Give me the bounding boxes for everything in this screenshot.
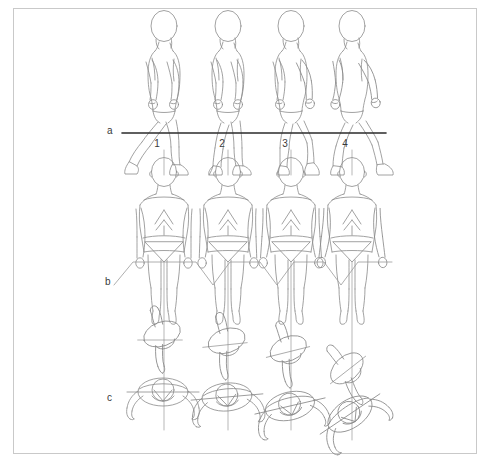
row-label-a: a: [107, 126, 113, 136]
shoulder-girdle-1: [134, 300, 192, 375]
column-number-1: 1: [150, 139, 164, 149]
figure-illustration: [0, 0, 496, 468]
column-number-2: 2: [215, 139, 229, 149]
sagittal-figure-4: [328, 11, 393, 176]
sagittal-figure-1: [125, 11, 188, 176]
pelvic-girdle-4: [312, 382, 396, 457]
row-label-b: b: [105, 277, 111, 287]
pelvic-girdle-1: [127, 378, 200, 420]
shoulder-girdle-3: [258, 312, 321, 392]
pelvic-girdle-2: [190, 380, 266, 428]
vertical-reference-lines: [164, 150, 352, 440]
pelvic-girdle-3: [251, 384, 331, 441]
column-number-4: 4: [338, 139, 352, 149]
sagittal-figure-3: [273, 11, 319, 176]
sawtooth-ground-line: [114, 262, 392, 285]
figure-page: a b c 1 2 3 4: [0, 0, 496, 468]
column-number-3: 3: [278, 139, 292, 149]
sagittal-figure-2: [209, 11, 251, 176]
row-label-c: c: [107, 393, 112, 403]
